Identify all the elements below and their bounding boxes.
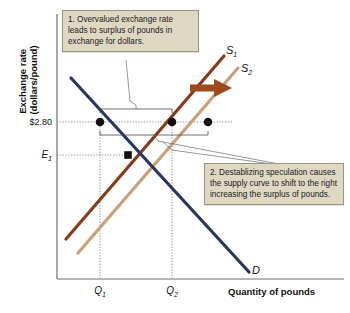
y-tick-label-e1: E1 [41, 149, 52, 162]
x-tick-label-q2: Q2 [166, 285, 178, 298]
y-axis-title: Exchange rate (dollars/pound) [17, 45, 39, 114]
leader-line-callout-1 [126, 60, 136, 109]
marker-equilibrium-point [124, 151, 132, 159]
x-tick-label-q1: Q1 [94, 285, 106, 298]
curve-label-d: D [252, 264, 260, 276]
surplus-bracket-upper [100, 109, 172, 113]
callout-box-1: 1. Overvalued exchange rate leads to sur… [62, 10, 199, 52]
callout-box-2: 2. Destablizing speculation causes the s… [204, 163, 344, 205]
curve-label-s2: S2 [241, 62, 252, 76]
x-axis-title: Quantity of pounds [228, 286, 315, 297]
marker-s1-point [168, 118, 177, 127]
surplus-bracket-lower [100, 131, 208, 135]
marker-demand-point [96, 118, 105, 127]
y-tick-label-280: $2.80 [29, 117, 52, 127]
marker-s2-point [204, 118, 213, 127]
supply-curve-s1 [66, 56, 224, 239]
curve-label-s1: S1 [226, 44, 237, 58]
chart-figure: S1 S2 D $2.80 E1 Q1 Q2 Quantity of pound… [0, 0, 350, 313]
